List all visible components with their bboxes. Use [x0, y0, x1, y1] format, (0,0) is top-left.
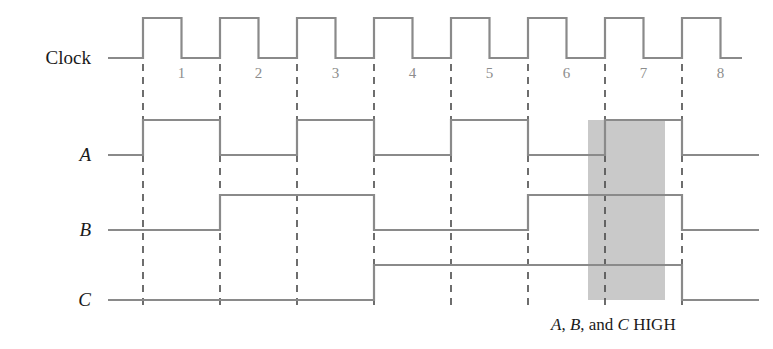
cycle-number-5: 5 [486, 65, 494, 81]
annotation-part-1: , [561, 315, 570, 334]
annotation-part-3: , and [580, 315, 617, 334]
annotation-part-2: B [570, 315, 581, 334]
timing-diagram-figure: Clock A B C 12345678 A, B, and C HIGH [0, 0, 773, 349]
annotation-part-0: A [550, 315, 562, 334]
signal-b-label: B [79, 219, 91, 240]
all-high-annotation: A, B, and C HIGH [550, 315, 676, 334]
cycle-number-3: 3 [332, 65, 340, 81]
cycle-number-7: 7 [640, 65, 648, 81]
cycle-number-8: 8 [717, 65, 725, 81]
timing-diagram-canvas: Clock A B C 12345678 A, B, and C HIGH [0, 0, 773, 349]
signal-a-label: A [77, 144, 91, 165]
signal-c-label: C [78, 289, 91, 310]
cycle-number-6: 6 [563, 65, 571, 81]
clock-label: Clock [46, 47, 92, 68]
annotation-part-5: HIGH [629, 315, 676, 334]
all-high-highlight-region [588, 120, 665, 300]
cycle-number-1: 1 [178, 65, 186, 81]
annotation-part-4: C [618, 315, 630, 334]
cycle-number-2: 2 [255, 65, 263, 81]
cycle-number-4: 4 [409, 65, 417, 81]
